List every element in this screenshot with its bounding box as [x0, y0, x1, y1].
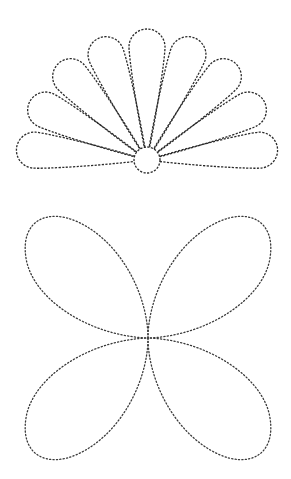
petal-bottom-right — [148, 338, 271, 460]
worksheet-canvas: Dotted tracing shapes Fan flower with ni… — [0, 0, 291, 479]
fan-petal — [83, 31, 164, 166]
petal-bottom-left — [25, 338, 148, 460]
fan-petal — [145, 131, 279, 178]
fan-petal — [130, 31, 211, 166]
four-petal-flower: Four-petal flower — [25, 216, 271, 459]
fan-flower: Fan flower with nine petals — [15, 29, 279, 178]
petal-top-right — [148, 216, 271, 338]
petal-top-left — [25, 216, 148, 338]
tracing-illustration: Fan flower with nine petals Four-petal f… — [0, 0, 291, 479]
fan-petal — [15, 131, 149, 178]
